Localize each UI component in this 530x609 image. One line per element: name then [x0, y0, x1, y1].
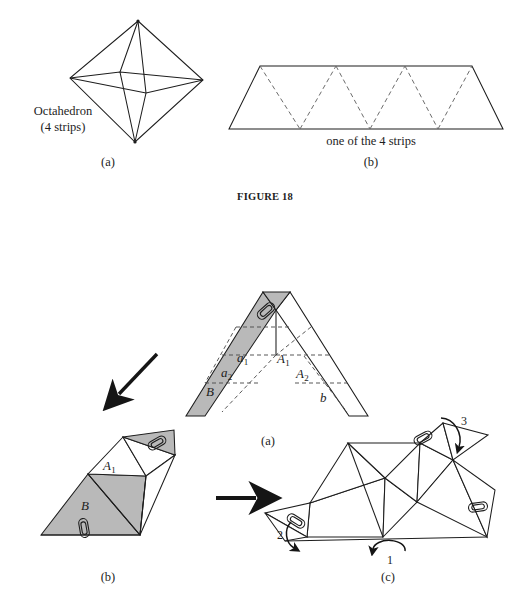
- label-b: b: [320, 390, 327, 407]
- label-a2: a2: [221, 365, 232, 383]
- panel-c-figure: [265, 418, 495, 551]
- strip-outline: [229, 66, 503, 129]
- rotation-arrow-3-label: 3: [461, 414, 467, 429]
- label-B-panel-a: B: [206, 384, 214, 401]
- octahedron-caption-line1: Octahedron: [34, 103, 92, 119]
- bottom-panel-b-tag: (b): [101, 569, 116, 585]
- panel-b-figure: [41, 430, 175, 538]
- label-A1-sub: 1: [285, 358, 290, 368]
- figure-page: Octahedron (4 strips) (a) one of the 4 s…: [0, 0, 530, 609]
- octahedron-axis-back: [120, 21, 138, 142]
- octahedron-caption-line2: (4 strips): [34, 119, 92, 135]
- label-a2-text: a: [221, 365, 228, 380]
- rotation-arrow-1: [373, 540, 405, 551]
- vertex-bottom: [133, 140, 136, 143]
- octahedron-caption: Octahedron (4 strips): [34, 103, 92, 135]
- vertex-top: [136, 19, 139, 22]
- label-A1-panel-b: A1: [103, 458, 116, 476]
- label-a2-sub: 2: [228, 372, 233, 382]
- figure-caption: FIGURE 18: [237, 190, 293, 203]
- rotation-arrow-2-label: 2: [277, 528, 283, 543]
- diagonal-arrow: [119, 354, 157, 394]
- bottom-panel-a-tag: (a): [261, 433, 275, 449]
- octahedron-equator-back: [70, 72, 203, 80]
- top-panel-b-tag: (b): [364, 154, 379, 170]
- figure-canvas: [0, 0, 530, 609]
- label-A2: A2: [296, 366, 309, 384]
- top-panel-a-tag: (a): [101, 154, 115, 170]
- octahedron-axis-front: [135, 21, 146, 142]
- label-a1-sub: 1: [244, 357, 249, 367]
- label-A1-panel-b-sub: 1: [111, 465, 116, 475]
- triangle-strip-figure: [229, 66, 503, 129]
- label-a1: a1: [237, 350, 248, 368]
- label-B-panel-b: B: [81, 498, 89, 515]
- label-a1-text: a: [237, 350, 244, 365]
- octahedron-equator-front: [70, 78, 203, 93]
- label-A2-text: A: [296, 366, 304, 381]
- rotation-arrow-1-label: 1: [387, 553, 393, 568]
- label-A1-text: A: [277, 351, 285, 366]
- label-A1-panel-b-text: A: [103, 458, 111, 473]
- strip-caption: one of the 4 strips: [326, 133, 416, 149]
- label-A2-sub: 2: [304, 373, 309, 383]
- label-A1-panel-a: A1: [277, 351, 290, 369]
- bottom-panel-c-tag: (c): [381, 569, 395, 585]
